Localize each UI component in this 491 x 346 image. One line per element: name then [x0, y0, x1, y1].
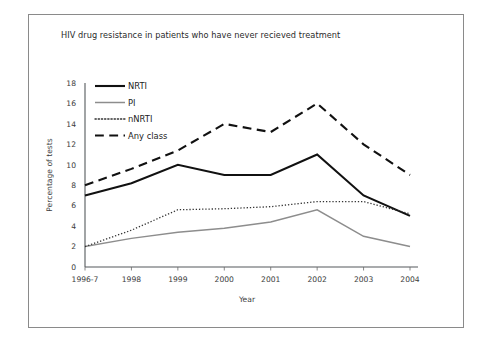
y-tick-label: 6	[71, 201, 76, 210]
y-tick-label: 4	[71, 222, 76, 231]
legend-label-any-class: Any class	[128, 131, 167, 141]
y-tick-label: 0	[71, 263, 76, 272]
y-axis-title: Percentage of tests	[45, 138, 54, 211]
x-tick-label: 1998	[122, 275, 141, 284]
y-tick-label: 14	[66, 120, 76, 129]
x-axis-title: Year	[238, 295, 256, 304]
y-tick-label: 10	[66, 161, 76, 170]
x-tick-label: 1999	[168, 275, 187, 284]
x-tick-label: 2002	[307, 275, 326, 284]
x-axis: 1996-71998199920002001200220032004	[72, 267, 420, 284]
series-line-pi	[85, 210, 410, 247]
x-tick-label: 2004	[400, 275, 419, 284]
y-tick-label: 16	[66, 99, 76, 108]
x-tick-label: 2003	[354, 275, 373, 284]
x-tick-label: 2001	[261, 275, 280, 284]
legend-label-nrti: NRTI	[128, 81, 147, 91]
x-tick-label: 2000	[215, 275, 234, 284]
legend-label-nnrti: nNRTI	[128, 114, 152, 124]
series-layer	[85, 103, 410, 246]
y-tick-label: 8	[71, 181, 76, 190]
y-axis: 024681012141618	[66, 79, 85, 272]
series-line-nnrti	[85, 202, 410, 247]
chart-legend: NRTIPInNRTIAny class	[95, 81, 167, 141]
series-line-nrti	[85, 155, 410, 216]
line-chart: 024681012141618 1996-7199819992000200120…	[0, 0, 491, 346]
x-tick-label: 1996-7	[72, 275, 99, 284]
y-tick-label: 18	[66, 79, 76, 88]
y-tick-label: 2	[71, 242, 76, 251]
y-tick-label: 12	[66, 140, 76, 149]
legend-label-pi: PI	[128, 98, 136, 108]
